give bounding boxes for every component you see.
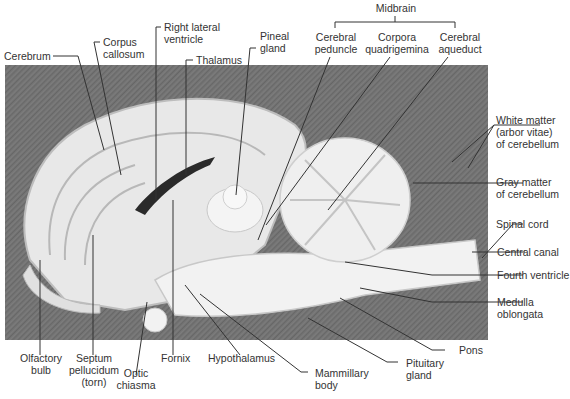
label-pons: Pons	[459, 344, 483, 356]
label-olfactory-bulb: Olfactory bulb	[16, 352, 66, 376]
label-central-canal: Central canal	[497, 246, 559, 258]
label-cerebral-aqueduct: Cerebral aqueduct	[432, 31, 488, 55]
label-midbrain: Midbrain	[366, 2, 426, 14]
label-text: Olfactory	[16, 352, 66, 364]
label-cerebrum: Cerebrum	[4, 50, 51, 62]
label-fourth-ventricle: Fourth ventricle	[497, 269, 569, 281]
label-text: Pineal	[260, 30, 289, 42]
label-text: Fornix	[161, 352, 190, 364]
label-text: Cerebral	[308, 31, 364, 43]
label-text: Gray matter	[496, 176, 559, 188]
label-optic-chiasma: Optic chiasma	[115, 367, 157, 391]
label-fornix: Fornix	[161, 352, 190, 364]
label-thalamus: Thalamus	[196, 54, 242, 66]
label-text: Pons	[459, 344, 483, 356]
label-text: Mammillary	[315, 367, 369, 379]
label-pituitary-gland: Pituitary gland	[406, 357, 444, 381]
label-text: Fourth ventricle	[497, 269, 569, 281]
label-text: callosum	[103, 48, 144, 60]
label-text: gland	[260, 42, 289, 54]
label-corpora-quadrigemina: Corpora quadrigemina	[362, 31, 432, 55]
label-text: Central canal	[497, 246, 559, 258]
label-text: (torn)	[68, 376, 120, 388]
label-medulla-oblongata: Medulla oblongata	[497, 296, 543, 320]
label-text: chiasma	[115, 379, 157, 391]
label-text: quadrigemina	[362, 43, 432, 55]
label-text: (arbor vitae)	[496, 126, 559, 138]
label-text: bulb	[16, 364, 66, 376]
label-mammillary-body: Mammillary body	[315, 367, 369, 391]
label-text: body	[315, 379, 369, 391]
label-pineal-gland: Pineal gland	[260, 30, 289, 54]
label-text: of cerebellum	[496, 188, 559, 200]
label-text: Spinal cord	[496, 218, 549, 230]
label-text: Corpora	[362, 31, 432, 43]
label-text: Corpus	[103, 36, 144, 48]
label-text: peduncle	[308, 43, 364, 55]
label-text: aqueduct	[432, 43, 488, 55]
label-text: Pituitary	[406, 357, 444, 369]
label-hypothalamus: Hypothalamus	[208, 352, 275, 364]
label-corpus-callosum: Corpus callosum	[103, 36, 144, 60]
label-text: Cerebrum	[4, 50, 51, 62]
label-text: Thalamus	[196, 54, 242, 66]
label-septum-pellucidum: Septum pellucidum (torn)	[68, 352, 120, 388]
label-text: gland	[406, 369, 444, 381]
label-text: pellucidum	[68, 364, 120, 376]
label-text: Cerebral	[432, 31, 488, 43]
label-text: Hypothalamus	[208, 352, 275, 364]
label-gray-matter: Gray matter of cerebellum	[496, 176, 559, 200]
label-right-lateral-ventricle: Right lateral ventricle	[164, 21, 220, 45]
label-cerebral-peduncle: Cerebral peduncle	[308, 31, 364, 55]
leader-lines	[0, 0, 570, 399]
label-text: oblongata	[497, 308, 543, 320]
label-text: of cerebellum	[496, 138, 559, 150]
label-text: Optic	[115, 367, 157, 379]
brain-diagram: Cerebrum Corpus callosum Right lateral v…	[0, 0, 570, 399]
label-text: Midbrain	[376, 2, 416, 14]
label-text: Septum	[68, 352, 120, 364]
label-text: Right lateral	[164, 21, 220, 33]
label-text: ventricle	[164, 33, 220, 45]
label-text: White matter	[496, 114, 559, 126]
label-spinal-cord: Spinal cord	[496, 218, 549, 230]
label-text: Medulla	[497, 296, 543, 308]
label-white-matter: White matter (arbor vitae) of cerebellum	[496, 114, 559, 150]
